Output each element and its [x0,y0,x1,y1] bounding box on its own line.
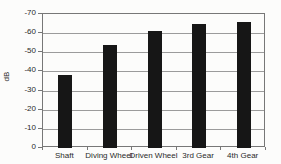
bar [237,22,251,148]
y-tick-label: -30 [0,86,36,94]
y-tick-mark [38,32,42,33]
y-tick-label: -20 [0,105,36,113]
y-tick-label: -60 [0,28,36,36]
y-tick-label: -50 [0,47,36,55]
x-tick-label: Driven Wheel [131,151,176,160]
y-tick-label: -40 [0,66,36,74]
x-tick-mark [176,147,177,150]
x-tick-mark [131,147,132,150]
x-tick-label: Diving Wheel [87,151,132,160]
y-tick-mark [38,90,42,91]
x-tick-mark [265,147,266,150]
plot-area [42,13,265,147]
y-tick-mark [38,128,42,129]
x-tick-label: 3rd Gear [176,151,221,160]
y-tick-label: -70 [0,9,36,17]
y-tick-label: -10 [0,124,36,132]
x-tick-mark [87,147,88,150]
y-tick-mark [38,109,42,110]
y-tick-mark [38,51,42,52]
bar-chart: dB -70-60-50-40-30-20-100 ShaftDiving Wh… [0,0,281,164]
x-tick-label: 4th Gear [220,151,265,160]
x-tick-label: Shaft [42,151,87,160]
bar [192,24,206,148]
bar [103,45,117,148]
y-tick-mark [38,13,42,14]
y-tick-label: 0 [0,143,36,151]
x-tick-mark [42,147,43,150]
y-tick-mark [38,70,42,71]
bar [148,31,162,148]
bar [58,75,72,148]
x-tick-mark [220,147,221,150]
